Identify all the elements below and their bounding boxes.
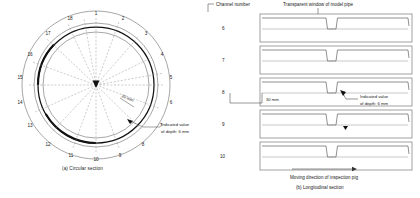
channel-label-7: 7 bbox=[222, 58, 225, 63]
channel-number-8: 8 bbox=[142, 142, 145, 147]
channel-7-trace bbox=[262, 50, 409, 61]
panel-longitudinal-section: Channel number Transparent window of mod… bbox=[200, 0, 420, 198]
panel-b-caption: (b) Longitudinal section bbox=[296, 185, 344, 190]
channel-label-6: 6 bbox=[222, 26, 225, 31]
channel-number-14: 14 bbox=[17, 100, 23, 105]
depth-annotation-line1: Indicated value bbox=[161, 122, 190, 127]
channel-9-depth-marker bbox=[343, 126, 348, 130]
circular-section-svg: 1 2 3 4 5 6 7 8 9 10 11 12 13 14 15 16 1… bbox=[8, 6, 193, 164]
channel-number-9: 9 bbox=[119, 153, 122, 158]
channel-number-bracket bbox=[208, 4, 214, 12]
moving-direction-arrow bbox=[292, 167, 357, 171]
channel-number-label: Channel number bbox=[216, 2, 250, 7]
channel-number-5: 5 bbox=[170, 75, 173, 80]
channel-number-1: 1 bbox=[95, 11, 98, 16]
channel-number-16: 16 bbox=[27, 52, 33, 57]
moving-direction-label: Moving direction of inspection pig bbox=[290, 175, 358, 180]
channel-number-2: 2 bbox=[122, 16, 125, 21]
channel-number-13: 13 bbox=[27, 123, 33, 128]
channel-number-10: 10 bbox=[93, 157, 99, 162]
channel-number-15: 15 bbox=[17, 75, 23, 80]
channel-strip-8: 8 30 mm Indicated value of depth: 6 mm bbox=[222, 78, 412, 106]
panel-circular-section: 1 2 3 4 5 6 7 8 9 10 11 12 13 14 15 16 1… bbox=[0, 0, 200, 198]
scale-label-30mm: 30 mm bbox=[266, 97, 279, 102]
window-label: Transparent window of model pipe bbox=[283, 2, 353, 7]
channel-10-trace bbox=[262, 146, 409, 157]
scale-label-30mm: 30 mm bbox=[121, 93, 135, 103]
channel-label-9: 9 bbox=[222, 122, 225, 127]
channel-label-8: 8 bbox=[222, 90, 225, 95]
channel-number-3: 3 bbox=[145, 31, 148, 36]
channel-strip-6: 6 bbox=[222, 14, 412, 42]
channel-number-17: 17 bbox=[45, 31, 51, 36]
depth-callout: Indicated value of depth: 6 mm bbox=[340, 90, 389, 106]
channel-8-trace bbox=[262, 82, 409, 93]
scale-bar-30mm: 30 mm bbox=[230, 93, 279, 103]
depth-annotation-line2: of depth: 6 mm bbox=[360, 101, 388, 106]
depth-annotation-line2: of depth: 6 mm bbox=[161, 129, 189, 134]
channel-number-11: 11 bbox=[69, 153, 74, 158]
channel-9-trace bbox=[262, 114, 409, 125]
channel-strip-10: 10 bbox=[220, 142, 412, 170]
figure-root: 1 2 3 4 5 6 7 8 9 10 11 12 13 14 15 16 1… bbox=[0, 0, 420, 198]
channel-strip-9: 9 bbox=[222, 110, 412, 138]
defect-arc bbox=[46, 114, 96, 143]
channel-label-10: 10 bbox=[220, 154, 226, 159]
longitudinal-section-svg: Channel number Transparent window of mod… bbox=[200, 0, 420, 182]
channel-6-trace bbox=[262, 18, 409, 29]
channel-number-12: 12 bbox=[45, 142, 51, 147]
panel-a-caption: (a) Circular section bbox=[62, 166, 103, 171]
channel-strip-7: 7 bbox=[222, 46, 412, 74]
depth-callout-arrow bbox=[127, 119, 133, 124]
channel-number-6: 6 bbox=[170, 100, 173, 105]
channel-number-18: 18 bbox=[67, 16, 73, 21]
channel-number-4: 4 bbox=[161, 52, 164, 57]
circular-diagram: 1 2 3 4 5 6 7 8 9 10 11 12 13 14 15 16 1… bbox=[8, 6, 193, 164]
center-marker bbox=[93, 81, 100, 89]
depth-annotation-line1: Indicated value bbox=[360, 94, 389, 99]
